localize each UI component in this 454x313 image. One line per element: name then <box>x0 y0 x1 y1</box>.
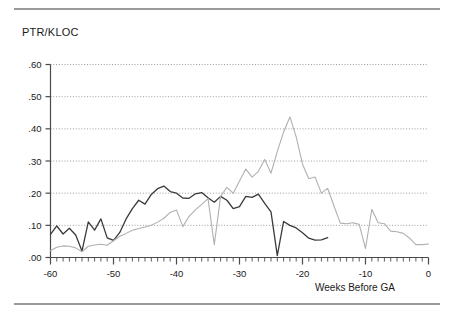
y-axis-tick-label: .30 <box>28 156 41 167</box>
x-axis-tick-label: -40 <box>170 268 184 279</box>
y-axis-tick-label: .50 <box>28 91 41 102</box>
y-axis-tick-label: .20 <box>28 188 41 199</box>
x-axis-tick-label: 0 <box>426 268 431 279</box>
y-axis-tick-label: .10 <box>28 220 41 231</box>
data-series-series-light <box>51 117 429 252</box>
y-axis-tick-label: .60 <box>28 59 41 70</box>
x-axis-tick-label: -30 <box>233 268 247 279</box>
x-axis-tick-label: -60 <box>44 268 58 279</box>
y-axis-tick-label: .40 <box>28 123 41 134</box>
line-chart-plot: .00.10.20.30.40.50.60-60-50-40-30-20-100 <box>0 0 454 313</box>
x-axis-tick-label: -10 <box>359 268 373 279</box>
x-axis-tick-label: -50 <box>107 268 121 279</box>
chart-page: PTR/KLOC .00.10.20.30.40.50.60-60-50-40-… <box>0 0 454 313</box>
x-axis-label: Weeks Before GA <box>315 282 395 293</box>
x-axis-tick-label: -20 <box>296 268 310 279</box>
y-axis-tick-label: .00 <box>28 252 41 263</box>
